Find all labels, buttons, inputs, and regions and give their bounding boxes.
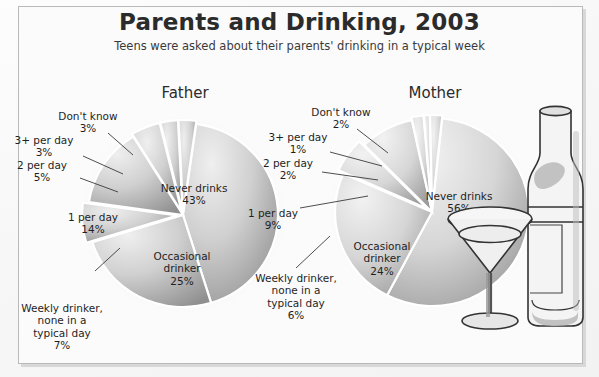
chart-title-father: Father [105, 84, 265, 102]
father-label-2-per-day: 2 per day 5% [2, 159, 82, 184]
glass-stem-shadow [486, 273, 490, 317]
father-label-3plus-per-day: 3+ per day 3% [2, 134, 86, 159]
drinks-illustration [440, 95, 590, 360]
infographic-canvas: Parents and Drinking, 2003 Teens were as… [0, 0, 599, 377]
mother-label-occasional-drinker: Occasional drinker 24% [340, 240, 424, 277]
mother-label-dont-know: Don't know 2% [294, 106, 388, 131]
page-title: Parents and Drinking, 2003 [0, 9, 599, 35]
father-label-1-per-day: 1 per day 14% [56, 211, 130, 236]
father-label-occasional-drinker: Occasional drinker 25% [140, 250, 224, 287]
father-label-weekly-drinker: Weekly drinker, none in a typical day 7% [8, 302, 116, 352]
father-label-never-drinks: Never drinks 43% [148, 182, 240, 207]
mother-label-2-per-day: 2 per day 2% [248, 157, 328, 182]
mother-label-1-per-day: 1 per day 9% [236, 207, 310, 232]
mother-label-weekly-drinker: Weekly drinker, none in a typical day 6% [242, 272, 350, 322]
page-subtitle: Teens were asked about their parents' dr… [0, 39, 599, 53]
mother-label-3plus-per-day: 3+ per day 1% [256, 131, 340, 156]
father-label-dont-know: Don't know 3% [40, 110, 136, 135]
